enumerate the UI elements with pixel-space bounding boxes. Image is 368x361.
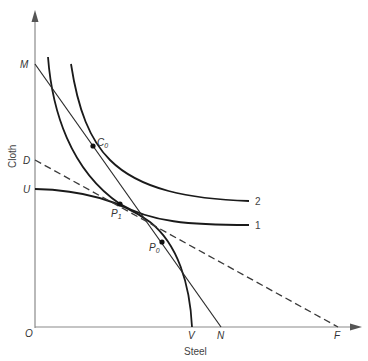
label-F: F bbox=[334, 330, 341, 341]
label-U: U bbox=[23, 184, 31, 195]
label-P0: P0 bbox=[149, 242, 160, 254]
line-DF bbox=[35, 160, 338, 327]
x-axis-arrow-icon bbox=[350, 324, 362, 331]
label-curve-1: 1 bbox=[255, 220, 261, 231]
trade-diagram: M D U O V N F C0 P1 P0 2 1 Steel Cloth bbox=[0, 0, 368, 361]
label-curve-2: 2 bbox=[255, 196, 261, 207]
label-P1-sub: 1 bbox=[118, 213, 122, 220]
label-C0-sub: 0 bbox=[104, 142, 108, 149]
label-C0: C0 bbox=[97, 137, 108, 149]
label-P0-sub: 0 bbox=[156, 247, 160, 254]
axes bbox=[32, 10, 363, 331]
label-P1: P1 bbox=[111, 208, 122, 220]
label-M: M bbox=[20, 59, 29, 70]
label-O: O bbox=[25, 328, 33, 339]
point-P0 bbox=[159, 239, 164, 244]
indifference-curve-2 bbox=[71, 64, 249, 201]
y-axis-arrow-icon bbox=[32, 10, 39, 22]
point-C0 bbox=[90, 143, 95, 148]
y-axis-title: Cloth bbox=[7, 145, 18, 168]
point-P1 bbox=[117, 201, 122, 206]
label-V: V bbox=[188, 330, 196, 341]
x-axis-title: Steel bbox=[184, 346, 207, 357]
label-N: N bbox=[217, 330, 225, 341]
label-D: D bbox=[23, 155, 30, 166]
